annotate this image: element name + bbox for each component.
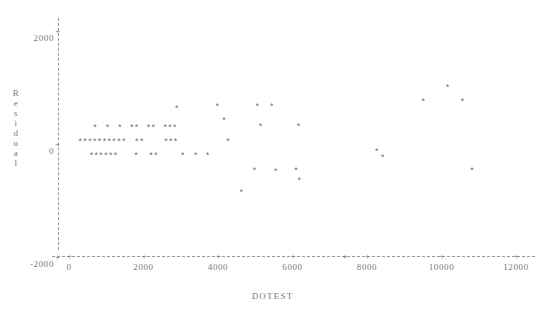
- data-point: *: [121, 139, 127, 148]
- y-axis-title-char: l: [10, 158, 22, 168]
- data-point: *: [238, 190, 244, 199]
- y-tick-mark: +: [55, 253, 60, 261]
- data-point: *: [205, 153, 211, 162]
- x-tick-label: 2000: [114, 262, 174, 272]
- y-axis-title-char: u: [10, 138, 22, 148]
- y-tick-label: -2000: [0, 253, 58, 261]
- data-point: *: [296, 178, 302, 187]
- data-point: *: [225, 139, 231, 148]
- data-point: *: [214, 104, 220, 113]
- data-point: *: [193, 153, 199, 162]
- x-tick-mark: +: [142, 252, 147, 260]
- y-axis-line: [58, 18, 59, 250]
- data-point: *: [113, 153, 119, 162]
- data-point: *: [444, 85, 450, 94]
- chart-title: [0, 0, 545, 3]
- data-point: *: [254, 104, 260, 113]
- data-point: *: [92, 125, 98, 134]
- data-point: *: [269, 104, 275, 113]
- x-tick-mark: +: [216, 252, 221, 260]
- x-tick-mark: +: [365, 252, 370, 260]
- x-tick-mark: +: [514, 252, 519, 260]
- y-axis-title-char: a: [10, 148, 22, 158]
- x-axis-title: DOTEST: [0, 291, 545, 301]
- data-point: *: [380, 155, 386, 164]
- y-tick-mark: +: [55, 27, 60, 35]
- data-point: *: [153, 153, 159, 162]
- data-point: *: [252, 168, 258, 177]
- y-tick-label: 2000: [0, 27, 58, 35]
- data-point: *: [221, 118, 227, 127]
- data-point: *: [173, 139, 179, 148]
- x-tick-label: 4000: [188, 262, 248, 272]
- y-tick-mark: +: [55, 140, 60, 148]
- data-point: *: [342, 256, 348, 265]
- residual-plot-screenshot: 2000+0+-2000+ +0+2000+4000+6000+8000+100…: [0, 0, 545, 313]
- data-point: *: [469, 168, 475, 177]
- data-point: *: [374, 149, 380, 158]
- data-point: *: [459, 99, 465, 108]
- data-point: *: [180, 153, 186, 162]
- data-point: *: [257, 124, 263, 133]
- y-axis-title-char: d: [10, 128, 22, 138]
- data-point: *: [295, 124, 301, 133]
- data-point: *: [273, 169, 279, 178]
- data-point: *: [104, 125, 110, 134]
- y-axis-title: Residual: [10, 88, 22, 168]
- x-tick-label: 0: [39, 262, 99, 272]
- data-point: *: [420, 99, 426, 108]
- scatter-plot: 2000+0+-2000+ +0+2000+4000+6000+8000+100…: [0, 0, 545, 313]
- y-axis-title-char: R: [10, 88, 22, 98]
- x-tick-mark: +: [67, 252, 72, 260]
- data-point: *: [133, 153, 139, 162]
- x-tick-label: 10000: [412, 262, 472, 272]
- y-axis-title-char: s: [10, 108, 22, 118]
- data-point: *: [139, 139, 145, 148]
- data-point: *: [133, 125, 139, 134]
- data-point: *: [172, 125, 178, 134]
- y-axis-title-char: e: [10, 98, 22, 108]
- x-tick-label: 6000: [263, 262, 323, 272]
- data-point: *: [174, 106, 180, 115]
- x-tick-mark: +: [291, 252, 296, 260]
- x-tick-mark: +: [440, 252, 445, 260]
- x-tick-label: 12000: [486, 262, 545, 272]
- y-axis-title-char: i: [10, 118, 22, 128]
- y-tick-label: 0: [0, 140, 58, 148]
- data-point: *: [150, 125, 156, 134]
- data-point: *: [117, 125, 123, 134]
